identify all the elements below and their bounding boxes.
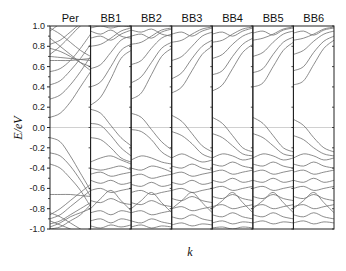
band-line [91,225,132,228]
band-line [91,211,132,215]
band-line [131,192,172,212]
x-axis-label: k [187,245,193,259]
band-line [293,186,334,190]
band-line [172,132,213,158]
y-tick-label: -0.4 [29,163,45,173]
band-line [172,223,213,226]
band-line [91,44,132,87]
band-line [91,199,132,205]
panel-title-bb4: BB4 [222,12,243,24]
band-line [131,130,172,158]
band-line [212,134,253,156]
panel-title-bb1: BB1 [100,12,121,24]
band-line [212,117,253,152]
band-line [131,174,172,178]
band-line [50,56,91,60]
band-line [131,29,172,36]
band-structure-chart: PerBB1BB2BB3BB4BB5BB6 1.00.80.60.40.20.0… [0,0,346,271]
band-line [293,40,334,85]
band-line [50,153,91,197]
panel-bands-bb4 [212,27,253,229]
band-line [50,138,91,191]
band-line [212,221,253,224]
panel-title-per: Per [62,12,79,24]
band-line [253,170,294,174]
band-line [91,50,132,105]
y-tick-label: 0.4 [32,82,45,92]
panel-bands-bb2 [131,28,172,228]
band-line [253,213,294,219]
band-line [293,178,334,182]
band-line [50,72,91,118]
band-line [212,44,253,91]
band-line [131,29,172,38]
band-line [50,56,91,99]
band-line [91,30,132,40]
panel-titles: PerBB1BB2BB3BB4BB5BB6 [62,12,324,24]
band-line [131,211,172,215]
band-line [212,28,253,36]
band-line [293,221,334,224]
band-line [91,123,132,155]
band-line [212,170,253,174]
band-line [91,190,132,210]
band-line [172,188,213,192]
band-line [293,162,334,168]
band-line [91,30,132,38]
band-line [293,31,334,54]
band-line [212,186,253,190]
panel-bands-bb3 [172,27,213,226]
y-tick-label: -0.8 [29,204,45,214]
band-line [253,134,294,156]
panel-bands-bb6 [293,27,334,224]
y-tick-label: 0.8 [32,41,45,51]
panel-title-bb6: BB6 [303,12,324,24]
panel-bands-bb1 [91,26,132,228]
panel-title-bb5: BB5 [263,12,284,24]
band-line [212,178,253,182]
band-line [131,225,172,228]
band-line [253,178,294,182]
band-line [50,184,91,214]
band-line [172,192,213,212]
band-line [131,156,172,164]
band-line [212,213,253,219]
band-line [212,194,253,200]
band-line [91,166,132,170]
band-line [172,164,213,170]
band-line [50,48,91,66]
band-line [253,117,294,152]
panel-title-bb2: BB2 [141,12,162,24]
band-line [91,180,132,184]
y-axis-label: E/eV [11,115,25,141]
band-line [172,28,213,36]
band-line [131,166,172,172]
y-tick-label: -0.2 [29,143,45,153]
band-line [172,172,213,176]
band-line [91,36,132,68]
y-tick-label: -0.6 [29,183,45,193]
band-line [293,170,334,174]
band-line [131,182,172,186]
band-line [172,197,213,203]
band-line [172,180,213,184]
band-line [293,192,334,212]
panel-title-bb3: BB3 [182,12,203,24]
band-line [172,215,213,221]
band-line [131,219,172,224]
band-line [253,42,294,87]
y-tick-label: 0.0 [32,123,45,133]
y-tick-label: 0.2 [32,102,45,112]
band-line [253,192,294,212]
band-line [172,207,213,211]
y-tick-label: 1.0 [32,21,45,31]
band-line [212,192,253,212]
panel-bands-bb5 [253,27,294,224]
band-line [293,136,334,156]
band-line [253,194,294,200]
band-line [253,221,294,224]
y-axis: 1.00.80.60.40.20.0-0.2-0.4-0.6-0.8-1.0 [29,21,50,234]
band-line [91,219,132,223]
band-line [50,21,91,44]
band-line [293,213,334,219]
